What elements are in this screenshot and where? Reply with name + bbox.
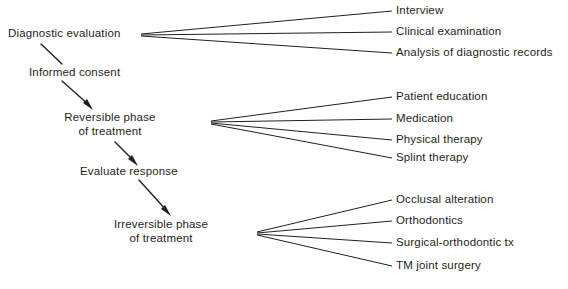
node-irreversible-phase-line2: of treatment (101, 231, 221, 245)
branch-fan-irreversible-phase (257, 200, 392, 266)
branch-fan-diagnostic-evaluation (141, 11, 392, 53)
branch-label-surgical-orthodontic-tx: Surgical-orthodontic tx (396, 236, 514, 249)
branch-label-orthodontics: Orthodontics (396, 214, 463, 227)
node-reversible-phase: Reversible phase of treatment (55, 110, 165, 138)
branch-label-interview: Interview (396, 4, 443, 17)
node-reversible-phase-line1: Reversible phase (55, 110, 165, 124)
node-reversible-phase-line2: of treatment (55, 124, 165, 138)
branch-label-clinical-examination: Clinical examination (396, 25, 501, 38)
branch-label-patient-education: Patient education (396, 90, 487, 103)
branch-label-analysis-of-diagnostic-records: Analysis of diagnostic records (396, 46, 553, 59)
node-informed-consent: Informed consent (29, 66, 120, 80)
connector-informed-to-reversible (62, 81, 93, 110)
flowchart-diagram: Diagnostic evaluation Informed consent R… (0, 0, 568, 289)
node-irreversible-phase-line1: Irreversible phase (101, 217, 221, 231)
branch-label-splint-therapy: Splint therapy (396, 151, 468, 164)
branch-label-occlusal-alteration: Occlusal alteration (396, 193, 493, 206)
connector-diagnostic-to-informed (41, 44, 62, 64)
branch-label-tm-joint-surgery: TM joint surgery (396, 259, 481, 272)
branch-label-medication: Medication (396, 112, 453, 125)
branch-fan-reversible-phase (211, 97, 392, 158)
connector-evaluate-to-irreversible (139, 180, 171, 216)
node-diagnostic-evaluation: Diagnostic evaluation (8, 27, 120, 41)
branch-label-physical-therapy: Physical therapy (396, 133, 483, 146)
connector-reversible-to-evaluate (115, 142, 138, 166)
node-evaluate-response: Evaluate response (80, 165, 178, 179)
node-irreversible-phase: Irreversible phase of treatment (101, 217, 221, 245)
